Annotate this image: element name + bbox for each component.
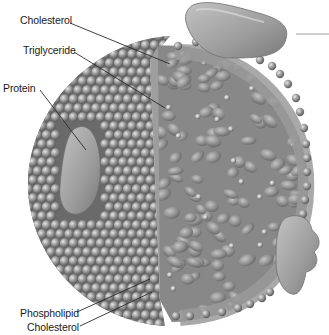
label-phospholipid: Phospholipid	[20, 307, 79, 319]
lipoprotein-diagram: Cholesterol Triglyceride Protein Phospho…	[0, 0, 329, 335]
protein-shape-right	[276, 216, 319, 295]
label-cholesterol-bottom: Cholesterol	[27, 321, 79, 333]
label-cholesterol-top: Cholesterol	[20, 14, 72, 26]
label-protein: Protein	[3, 82, 36, 94]
label-triglyceride: Triglyceride	[23, 44, 76, 56]
